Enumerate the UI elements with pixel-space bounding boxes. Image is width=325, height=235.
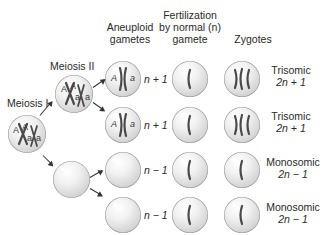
zygote-label-2: Trisomic 2n + 1 xyxy=(263,110,319,134)
allele-a: a xyxy=(36,133,41,143)
zygote-formula: 2n − 1 xyxy=(263,213,323,225)
gamete-ploidy-4: n − 1 xyxy=(144,209,168,221)
allele-a: a xyxy=(75,92,80,102)
allele-A: A xyxy=(22,122,28,132)
allele-a: a xyxy=(27,133,32,143)
allele-A: A xyxy=(70,81,76,91)
allele-a: a xyxy=(85,92,90,102)
zygote-type: Monosomic xyxy=(263,156,323,168)
zygote-formula: 2n − 1 xyxy=(263,168,323,180)
allele-a: a xyxy=(130,119,135,129)
allele-A: A xyxy=(111,119,117,129)
gamete-ploidy-2: n + 1 xyxy=(144,119,168,131)
zygote-formula: 2n + 1 xyxy=(263,122,319,134)
zygote-label-4: Monosomic 2n − 1 xyxy=(263,201,323,225)
allele-A: A xyxy=(61,84,67,94)
gamete-ploidy-1: n + 1 xyxy=(144,73,168,85)
zygote-label-1: Trisomic 2n + 1 xyxy=(263,64,319,88)
zygote-formula: 2n + 1 xyxy=(263,76,319,88)
allele-a: a xyxy=(130,73,135,83)
zygote-type: Trisomic xyxy=(263,64,319,76)
zygote-type: Trisomic xyxy=(263,110,319,122)
allele-A: A xyxy=(13,125,19,135)
allele-A: A xyxy=(111,73,117,83)
gamete-ploidy-3: n − 1 xyxy=(144,164,168,176)
zygote-label-3: Monosomic 2n − 1 xyxy=(263,156,323,180)
zygote-type: Monosomic xyxy=(263,201,323,213)
